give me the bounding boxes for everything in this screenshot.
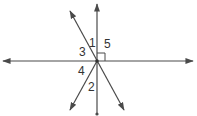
angle-diagram: 1 5 3 4 2 [0, 0, 197, 116]
diagram-canvas: 1 5 3 4 2 [0, 0, 197, 116]
angle-label-3: 3 [79, 45, 86, 59]
vertical-line-endpoint-dot [95, 112, 98, 115]
angle-label-1: 1 [89, 36, 96, 50]
angle-label-5: 5 [104, 37, 111, 51]
angle-label-4: 4 [78, 64, 85, 78]
angle-label-2: 2 [88, 80, 95, 94]
intersection-point [95, 59, 99, 63]
